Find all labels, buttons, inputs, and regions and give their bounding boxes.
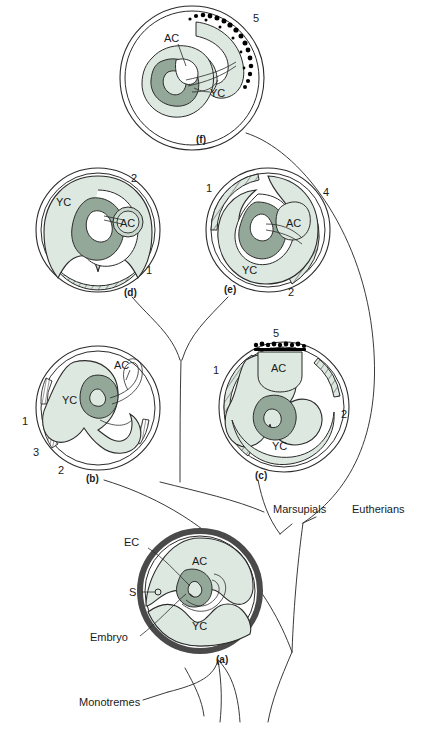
- panel-b-label-yc: YC: [62, 394, 77, 406]
- tree-branch-d: [132, 297, 180, 360]
- panel-d-number-1: 1: [146, 264, 152, 276]
- panel-d-caption: (d): [124, 287, 137, 298]
- tree-branch-e: [182, 297, 228, 360]
- taxon-label-eutherians: Eutherians: [352, 503, 405, 515]
- panel-e-label-yc: YC: [242, 264, 257, 276]
- tree-stem-de: [180, 360, 181, 482]
- panel-e-number-2: 2: [288, 286, 294, 298]
- panel-a-caption: (a): [216, 654, 228, 665]
- panel-d-number-2: 2: [131, 172, 137, 184]
- tree-branch-monotremes-curve: [168, 660, 218, 692]
- panel-b-number-3: 3: [33, 446, 39, 458]
- panel-e-number-1: 1: [206, 182, 212, 194]
- panel-f-caption: (f): [196, 134, 206, 145]
- tree-stem-a: [218, 660, 221, 722]
- panel-f-label-yc: YC: [210, 87, 225, 99]
- mammalian-fetal-membrane-evolution-diagram: AC YC 5 (f) YC AC 2 1 (d): [0, 0, 438, 744]
- panel-a-label-ec: EC: [124, 536, 139, 548]
- panel-c-label-ac: AC: [271, 362, 286, 374]
- panel-e-label-ac: AC: [286, 217, 301, 229]
- panel-c-caption: (c): [255, 470, 267, 481]
- figure-root: AC YC 5 (f) YC AC 2 1 (d): [0, 0, 438, 744]
- taxon-label-monotremes: Monotremes: [79, 696, 141, 708]
- panel-c-number-5: 5: [273, 327, 279, 339]
- panel-e-caption: (e): [224, 284, 236, 295]
- panel-a-label-ac: AC: [192, 555, 207, 567]
- panel-d: YC AC 2 1 (d): [36, 168, 160, 298]
- panel-a-label-embryo: Embryo: [90, 631, 128, 643]
- tree-branch-monotremes: [143, 692, 168, 700]
- tree-branch-marsupials-tick: [280, 524, 292, 534]
- tree-branch-eutherian-descend: [292, 523, 303, 652]
- taxon-label-marsupials: Marsupials: [273, 503, 327, 515]
- panel-e-number-4: 4: [323, 186, 329, 198]
- panel-c-villi-icon: [254, 342, 306, 351]
- panel-f-number-5: 5: [253, 12, 259, 24]
- panel-b: AC YC 1 3 2 (b): [22, 346, 160, 484]
- panel-f: AC YC 5 (f): [120, 6, 264, 150]
- panel-a-label-yc: YC: [192, 620, 207, 632]
- panel-c-label-yc: YC: [272, 440, 287, 452]
- panel-b-number-1: 1: [22, 415, 28, 427]
- panel-a: EC S Embryo AC YC (a): [90, 531, 260, 665]
- panel-b-number-2: 2: [58, 464, 64, 476]
- panel-f-label-ac: AC: [164, 32, 179, 44]
- panel-c-number-2: 2: [341, 408, 347, 420]
- panel-d-label-yc: YC: [56, 196, 71, 208]
- panel-b-label-ac: AC: [114, 359, 129, 371]
- panel-e: AC YC 1 4 2 (e): [206, 168, 330, 298]
- tree-root-stem: [268, 652, 292, 722]
- panel-b-caption: (b): [86, 473, 99, 484]
- panel-c: AC YC 5 1 2 (c): [213, 327, 349, 481]
- panel-d-label-ac: AC: [120, 217, 135, 229]
- tree-branch-b: [160, 482, 264, 512]
- tree-branch-a: [185, 668, 204, 716]
- panel-a-label-s: S: [129, 586, 136, 598]
- panel-c-number-1: 1: [213, 364, 219, 376]
